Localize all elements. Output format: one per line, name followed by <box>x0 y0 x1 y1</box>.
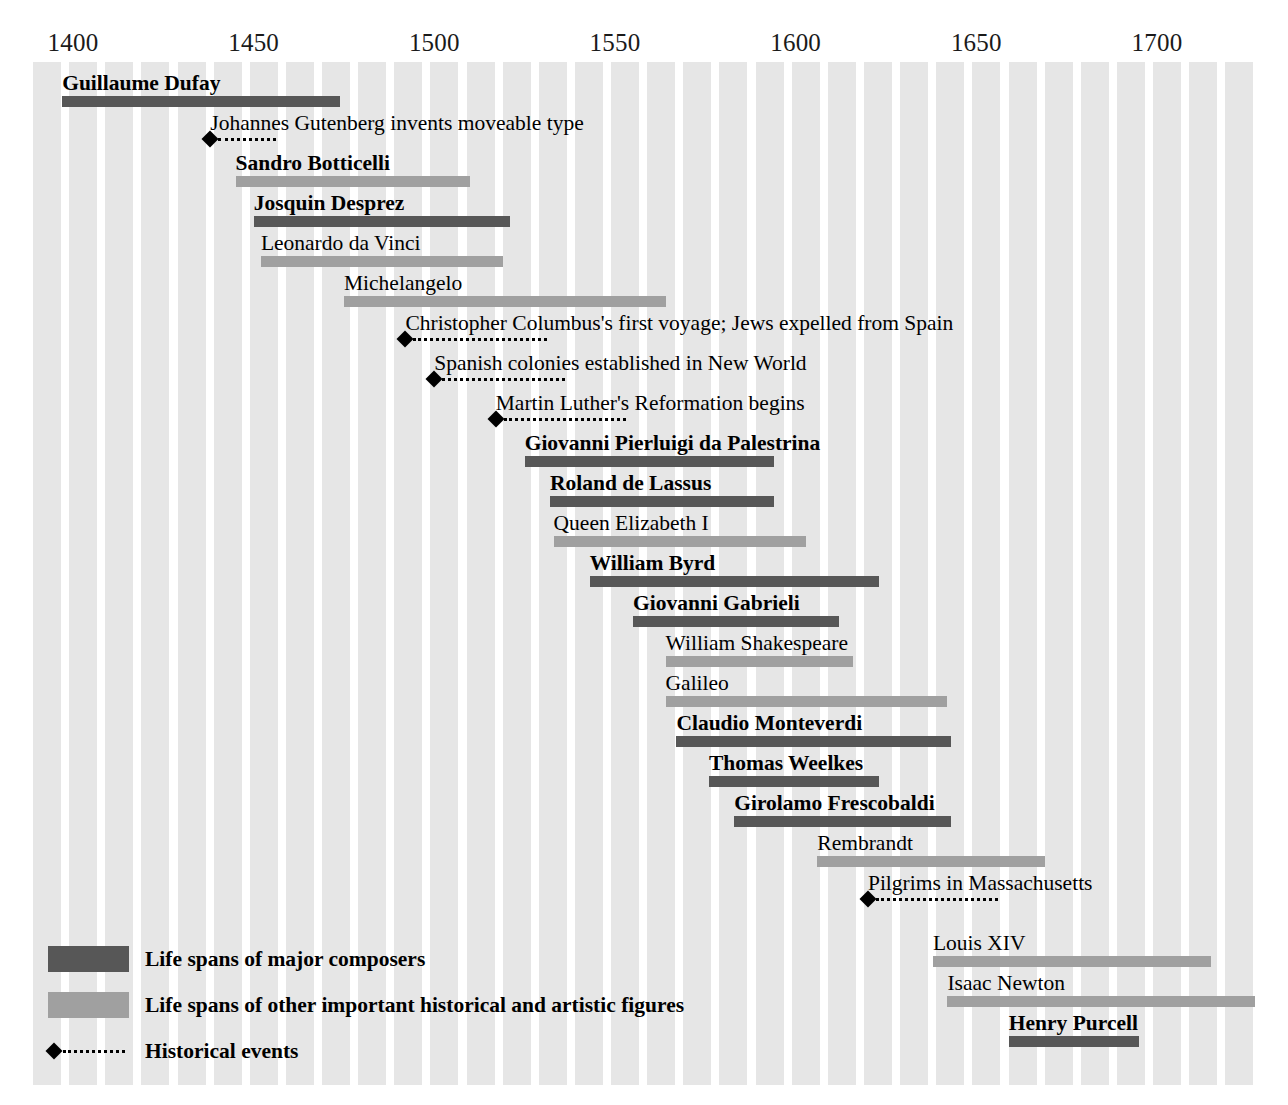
row-label: William Byrd <box>590 551 716 575</box>
row-label: Giovanni Gabrieli <box>633 591 800 615</box>
row-label: Thomas Weelkes <box>709 751 863 775</box>
lifespan-bar <box>590 576 879 587</box>
event-dotted-line <box>504 418 626 421</box>
legend-label: Life spans of other important historical… <box>145 990 684 1020</box>
lifespan-bar <box>236 176 471 187</box>
axis-tick-1600: 1600 <box>770 28 821 58</box>
timeline-row: Josquin Desprez <box>0 188 1288 228</box>
event-dotted-line <box>442 378 564 381</box>
row-label: Henry Purcell <box>1009 1011 1138 1035</box>
lifespan-bar <box>62 96 340 107</box>
row-label: Queen Elizabeth I <box>554 511 709 535</box>
timeline-row: Giovanni Gabrieli <box>0 588 1288 628</box>
lifespan-bar <box>666 696 948 707</box>
diamond-icon <box>487 411 504 428</box>
event-dotted-line <box>218 138 275 141</box>
row-label: Michelangelo <box>344 271 462 295</box>
lifespan-bar <box>554 536 807 547</box>
timeline-row: Galileo <box>0 668 1288 708</box>
axis-tick-1450: 1450 <box>228 28 279 58</box>
lifespan-bar <box>254 216 511 227</box>
timeline-row: Christopher Columbus's first voyage; Jew… <box>0 308 1288 348</box>
axis-tick-1400: 1400 <box>48 28 99 58</box>
lifespan-bar <box>933 956 1211 967</box>
lifespan-bar <box>817 856 1045 867</box>
event-dotted-line <box>876 898 998 901</box>
event-marker <box>862 892 994 908</box>
row-label: Leonardo da Vinci <box>261 231 421 255</box>
diamond-icon <box>202 131 219 148</box>
legend-item-figure: Life spans of other important historical… <box>48 986 868 1032</box>
lifespan-bar <box>947 996 1254 1007</box>
axis-tick-1500: 1500 <box>409 28 460 58</box>
row-label: Isaac Newton <box>947 971 1065 995</box>
legend-label: Life spans of major composers <box>145 944 425 974</box>
timeline-chart: 1400145015001550160016501700 Guillaume D… <box>0 0 1288 1105</box>
event-dotted-line <box>413 338 546 341</box>
legend-swatch-composer <box>48 946 129 972</box>
legend-swatch-figure <box>48 992 129 1018</box>
lifespan-bar <box>709 776 879 787</box>
legend-event-marker <box>48 1044 129 1058</box>
row-label: Galileo <box>666 671 729 695</box>
timeline-row: Spanish colonies established in New Worl… <box>0 348 1288 388</box>
diamond-icon <box>397 331 414 348</box>
axis-tick-1700: 1700 <box>1132 28 1183 58</box>
row-label: Guillaume Dufay <box>62 71 220 95</box>
row-label: Louis XIV <box>933 931 1026 955</box>
timeline-row: Roland de Lassus <box>0 468 1288 508</box>
timeline-row: Rembrandt <box>0 828 1288 868</box>
lifespan-bar <box>734 816 951 827</box>
lifespan-bar <box>676 736 951 747</box>
timeline-row: Leonardo da Vinci <box>0 228 1288 268</box>
row-label: William Shakespeare <box>666 631 848 655</box>
legend-dotted-line <box>63 1050 125 1053</box>
lifespan-bar <box>344 296 666 307</box>
timeline-row: Giovanni Pierluigi da Palestrina <box>0 428 1288 468</box>
diamond-icon <box>426 371 443 388</box>
timeline-row: Girolamo Frescobaldi <box>0 788 1288 828</box>
timeline-row: Michelangelo <box>0 268 1288 308</box>
time-axis: 1400145015001550160016501700 <box>0 28 1288 62</box>
legend-item-event: Historical events <box>48 1032 868 1078</box>
event-marker <box>428 372 560 388</box>
axis-tick-1550: 1550 <box>590 28 641 58</box>
diamond-icon <box>46 1043 63 1060</box>
event-marker <box>204 132 271 148</box>
lifespan-bar <box>525 456 774 467</box>
lifespan-bar <box>1009 1036 1139 1047</box>
event-marker <box>490 412 622 428</box>
row-label: Rembrandt <box>817 831 913 855</box>
lifespan-bar <box>261 256 503 267</box>
row-label: Roland de Lassus <box>550 471 711 495</box>
row-label: Sandro Botticelli <box>236 151 390 175</box>
timeline-row: Guillaume Dufay <box>0 68 1288 108</box>
lifespan-bar <box>633 616 839 627</box>
diamond-icon <box>859 891 876 908</box>
lifespan-bar <box>550 496 774 507</box>
event-marker <box>399 332 542 348</box>
row-label: Josquin Desprez <box>254 191 405 215</box>
chart-legend: Life spans of major composersLife spans … <box>48 940 868 1078</box>
timeline-row: Thomas Weelkes <box>0 748 1288 788</box>
lifespan-bar <box>666 656 854 667</box>
timeline-row: Sandro Botticelli <box>0 148 1288 188</box>
legend-item-composer: Life spans of major composers <box>48 940 868 986</box>
axis-tick-1650: 1650 <box>951 28 1002 58</box>
timeline-row: Martin Luther's Reformation begins <box>0 388 1288 428</box>
timeline-row: William Shakespeare <box>0 628 1288 668</box>
timeline-row: Queen Elizabeth I <box>0 508 1288 548</box>
timeline-row: Johannes Gutenberg invents moveable type <box>0 108 1288 148</box>
timeline-row: Pilgrims in Massachusetts <box>0 868 1288 908</box>
row-label: Giovanni Pierluigi da Palestrina <box>525 431 821 455</box>
timeline-row: Claudio Monteverdi <box>0 708 1288 748</box>
row-label: Girolamo Frescobaldi <box>734 791 934 815</box>
legend-label: Historical events <box>145 1036 298 1066</box>
timeline-row: William Byrd <box>0 548 1288 588</box>
row-label: Claudio Monteverdi <box>676 711 862 735</box>
